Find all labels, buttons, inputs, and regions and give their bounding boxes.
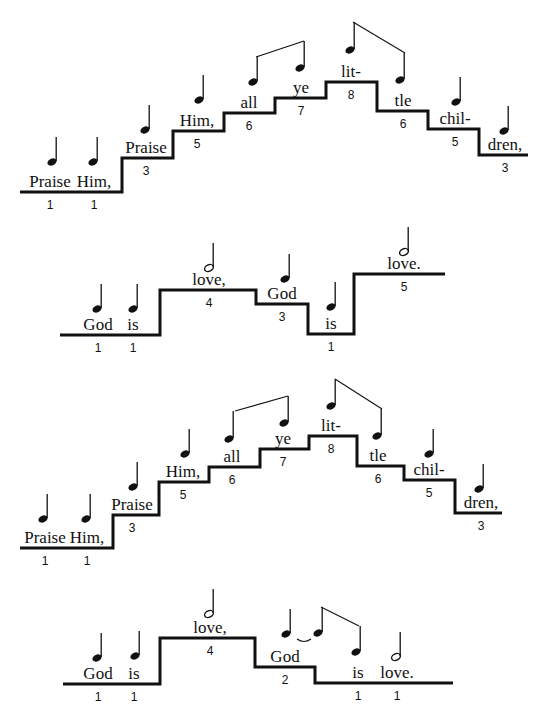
quarter-note-icon xyxy=(129,631,141,661)
beam-line xyxy=(353,22,405,53)
half-note-icon xyxy=(398,227,409,257)
quarter-note-icon xyxy=(179,429,191,459)
scale-degree-number: 8 xyxy=(348,88,355,102)
lyric-syllable: Him, xyxy=(166,462,200,481)
scale-degree-number: 6 xyxy=(229,473,236,487)
scale-degree-number: 5 xyxy=(452,135,459,149)
scale-degree-number: 7 xyxy=(298,104,305,118)
lyric-syllable: lit- xyxy=(321,416,341,435)
lyric-syllable: tle xyxy=(370,446,387,465)
scale-degree-number: 1 xyxy=(91,198,98,212)
beam-line xyxy=(335,379,382,409)
quarter-note-icon xyxy=(193,75,205,105)
beam-line xyxy=(235,396,288,411)
scale-degree-number: 3 xyxy=(129,521,136,535)
quarter-note-icon xyxy=(473,464,485,494)
scale-degree-number: 1 xyxy=(42,554,49,568)
quarter-note-icon xyxy=(450,77,462,107)
scale-degree-number: 4 xyxy=(207,644,214,658)
lyric-syllable: all xyxy=(224,447,241,466)
quarter-note-icon xyxy=(37,494,49,524)
lyric-syllable: ye xyxy=(293,78,309,97)
diagram-god-is-love-2: God1is1love,4God2is1love.1 xyxy=(63,589,453,704)
lyric-syllable: is xyxy=(352,663,363,682)
scale-degree-number: 1 xyxy=(95,341,102,355)
beam-line xyxy=(256,41,304,57)
scale-degree-number: 8 xyxy=(328,442,335,456)
tie-icon xyxy=(297,639,311,642)
scale-degree-number: 1 xyxy=(131,690,138,704)
quarter-note-icon xyxy=(127,284,139,314)
half-note-icon xyxy=(203,589,214,619)
diagram-praise-him-2: Praise1Him,1Praise3Him,5all6ye7lit-8tle6… xyxy=(20,379,502,568)
lyric-syllable: love. xyxy=(380,663,414,682)
scale-degree-number: 5 xyxy=(180,488,187,502)
scale-degree-number: 3 xyxy=(478,519,485,533)
scale-degree-number: 4 xyxy=(206,296,213,310)
scale-degree-number: 6 xyxy=(400,117,407,131)
quarter-note-icon xyxy=(423,429,435,459)
lyric-syllable: love, xyxy=(193,618,227,637)
quarter-note-icon xyxy=(91,284,103,314)
scale-degree-number: 6 xyxy=(375,472,382,486)
lyric-syllable: is xyxy=(127,315,138,334)
lyric-syllable: chil- xyxy=(413,460,444,479)
quarter-note-icon xyxy=(87,137,99,167)
quarter-note-icon xyxy=(139,105,151,135)
lyric-syllable: Praise xyxy=(24,528,66,547)
lyric-syllable: ye xyxy=(275,429,291,448)
half-note-icon xyxy=(203,243,214,273)
diagram-god-is-love-1: God1is1love,4God3is1love.5 xyxy=(60,227,445,355)
lyric-syllable: love, xyxy=(192,270,226,289)
quarter-note-icon xyxy=(498,106,510,136)
lyric-syllable: all xyxy=(241,93,258,112)
beam-line xyxy=(321,607,359,626)
scale-degree-number: 3 xyxy=(279,310,286,324)
scale-degree-number: 1 xyxy=(355,689,362,703)
scale-degree-number: 5 xyxy=(426,486,433,500)
scale-degree-number: 3 xyxy=(143,164,150,178)
lyric-syllable: is xyxy=(325,314,336,333)
lyric-syllable: Him, xyxy=(77,172,111,191)
staircase-diagrams: Praise1Him,1Praise3Him,5all6ye7lit-8tle6… xyxy=(0,0,551,723)
lyric-syllable: Him, xyxy=(70,528,104,547)
half-note-icon xyxy=(390,632,401,662)
quarter-note-icon xyxy=(80,494,92,524)
lyric-syllable: Praise xyxy=(29,172,71,191)
scale-degree-number: 5 xyxy=(401,280,408,294)
scale-degree-number: 2 xyxy=(282,673,289,687)
quarter-note-icon xyxy=(325,282,337,312)
diagram-praise-him-1: Praise1Him,1Praise3Him,5all6ye7lit-8tle6… xyxy=(20,22,528,212)
lyric-syllable: dren, xyxy=(464,493,498,512)
scale-degree-number: 5 xyxy=(194,137,201,151)
quarter-note-icon xyxy=(279,254,291,284)
quarter-note-icon xyxy=(46,137,58,167)
lyric-syllable: God xyxy=(83,315,113,334)
lyric-syllable: love. xyxy=(387,254,421,273)
scale-degree-number: 1 xyxy=(394,689,401,703)
scale-degree-number: 1 xyxy=(130,341,137,355)
scale-degree-number: 1 xyxy=(47,198,54,212)
lyric-syllable: Him, xyxy=(180,111,214,130)
lyric-syllable: dren, xyxy=(488,135,522,154)
lyric-syllable: Praise xyxy=(111,495,153,514)
scale-degree-number: 7 xyxy=(280,455,287,469)
staircase-line xyxy=(60,274,445,335)
lyric-syllable: Praise xyxy=(125,138,167,157)
lyric-syllable: is xyxy=(128,664,139,683)
scale-degree-number: 1 xyxy=(84,554,91,568)
lyric-syllable: tle xyxy=(395,91,412,110)
scale-degree-number: 1 xyxy=(95,690,102,704)
lyric-syllable: God xyxy=(270,647,300,666)
lyric-syllable: God xyxy=(83,664,113,683)
lyric-syllable: God xyxy=(267,284,297,303)
scale-degree-number: 3 xyxy=(502,161,509,175)
lyric-syllable: chil- xyxy=(439,109,470,128)
scale-degree-number: 1 xyxy=(328,340,335,354)
lyric-syllable: lit- xyxy=(341,62,361,81)
quarter-note-icon xyxy=(127,462,139,492)
quarter-note-icon xyxy=(91,633,103,663)
scale-degree-number: 6 xyxy=(246,119,253,133)
